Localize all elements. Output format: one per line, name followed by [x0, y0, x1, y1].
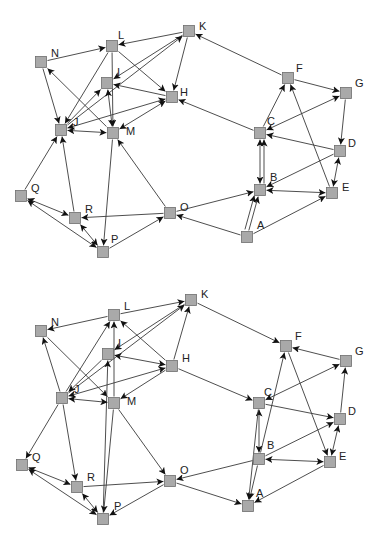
node-box [165, 208, 176, 219]
edge-R-P [82, 494, 97, 513]
edge-J-Q [26, 405, 58, 459]
node-N: N [36, 316, 60, 337]
node-box [184, 26, 195, 37]
node-D: D [335, 137, 357, 157]
edge-J-M [68, 130, 107, 132]
node-box [165, 476, 176, 487]
node-label: N [51, 316, 59, 328]
edge-G-C [267, 96, 340, 130]
node-box [102, 78, 113, 89]
node-L: L [109, 300, 131, 321]
node-box [17, 460, 28, 471]
node-box [325, 457, 336, 468]
node-box [335, 414, 346, 425]
edge-D-E [332, 426, 339, 456]
edge-D-E [333, 158, 339, 187]
node-D: D [335, 405, 357, 425]
node-label: M [127, 395, 136, 407]
node-P: P [98, 500, 122, 525]
edge-B-E [267, 190, 326, 192]
node-E: E [325, 450, 347, 468]
node-H: H [167, 352, 191, 372]
edge-Q-R [28, 199, 69, 216]
edge-L-M [112, 53, 113, 127]
node-label: A [257, 219, 265, 231]
node-J: J [56, 116, 79, 136]
node-label: K [199, 20, 207, 32]
node-box [109, 398, 120, 409]
node-box [56, 125, 67, 136]
node-box [107, 41, 118, 52]
edge-J-N [43, 338, 60, 392]
edge-F-K [196, 34, 282, 75]
node-label: J [74, 383, 80, 395]
edge-Q-R [29, 468, 71, 485]
node-box [242, 232, 253, 243]
node-box [109, 310, 120, 321]
node-label: N [51, 47, 59, 59]
node-label: H [182, 352, 190, 364]
edge-R-J [62, 137, 74, 212]
edge-H-I [115, 355, 166, 365]
node-K: K [184, 20, 208, 37]
node-label: D [348, 137, 356, 149]
edge-A-O [177, 215, 241, 235]
node-G: G [341, 345, 364, 367]
edge-B-D [266, 422, 334, 456]
node-label: Q [31, 182, 40, 194]
node-A: A [242, 219, 266, 243]
node-box [98, 247, 109, 258]
node-box [254, 398, 265, 409]
edge-A-B [245, 195, 254, 229]
edge-R-O [84, 481, 164, 486]
edge-K-L [119, 32, 183, 44]
node-box [255, 128, 266, 139]
node-box [57, 393, 68, 404]
node-N: N [36, 47, 60, 68]
edge-O-M [118, 140, 166, 207]
edge-N-J [43, 69, 59, 124]
node-label: F [295, 330, 302, 342]
edge-Q-J [25, 137, 57, 190]
node-K: K [186, 288, 210, 306]
node-layer: KLNIHJMFGCDBEAOQRP [17, 288, 364, 525]
node-O: O [165, 201, 190, 219]
node-F: F [281, 330, 303, 352]
edge-E-F [290, 85, 329, 187]
node-label: G [355, 345, 364, 357]
edge-D-C [267, 134, 334, 149]
node-label: J [73, 116, 79, 128]
node-label: C [264, 386, 272, 398]
node-label: K [201, 288, 209, 300]
node-label: I [118, 337, 121, 349]
node-box [167, 361, 178, 372]
edge-F-E [288, 353, 327, 456]
node-H: H [167, 86, 189, 103]
node-B: B [254, 439, 275, 465]
node-label: B [270, 171, 277, 183]
edge-J-R [63, 405, 76, 481]
node-C: C [255, 115, 276, 139]
edge-G-D [341, 100, 346, 145]
node-label: A [256, 487, 264, 499]
edge-B-E [266, 459, 324, 461]
node-box [36, 57, 47, 68]
node-box [108, 128, 119, 139]
node-box [254, 454, 265, 465]
edge-G-F [293, 348, 340, 360]
node-M: M [109, 395, 137, 409]
edge-K-F [198, 303, 280, 343]
node-label: P [111, 233, 118, 245]
node-label: L [118, 29, 124, 41]
edge-O-R [82, 213, 164, 217]
node-E: E [327, 181, 350, 199]
edge-I-M [108, 90, 112, 127]
node-M: M [108, 125, 136, 139]
node-label: O [180, 201, 189, 213]
node-box [186, 295, 197, 306]
network-diagram: KLNIHJMFGCDBEAOQRP KLNIHJMFGCDBEAOQRP [0, 0, 377, 536]
edge-C-G [266, 364, 340, 400]
node-label: R [87, 471, 95, 483]
edge-H-L [121, 321, 166, 361]
node-box [72, 482, 83, 493]
